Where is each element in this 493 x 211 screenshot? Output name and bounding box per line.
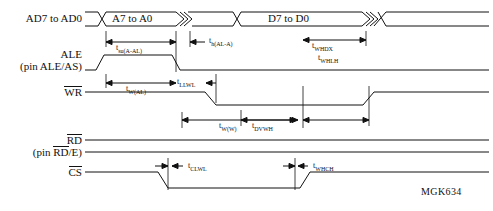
signal-label-rd-pin: (pin RD/E) [0, 146, 82, 158]
measure-twhlh [303, 86, 369, 128]
t-dvwh-sub: DVWH [254, 126, 273, 132]
signal-label-rd: RD (pin RD/E) [0, 134, 82, 158]
timing-label-t-w-w: tW(W) [219, 121, 237, 132]
measure-th-al-a [190, 31, 205, 47]
signal-label-ad-bus: AD7 to AD0 [0, 12, 82, 24]
t-whch-sub: WHCH [315, 166, 333, 172]
measure-twhch [283, 158, 308, 190]
signal-label-ale-pin: (pin ALE/AS) [0, 60, 82, 72]
signal-label-ad-bus-text: AD7 to AD0 [26, 12, 82, 24]
bus-label-address: A7 to A0 [112, 12, 152, 24]
timing-label-t-whlh: tWHLH [318, 53, 338, 64]
signal-label-ale: ALE (pin ALE/AS) [0, 48, 82, 72]
t-w-al-sub: W(AL) [128, 89, 146, 95]
signal-label-wr: WR [0, 86, 82, 98]
timing-label-t-llwl: tLLWL [177, 77, 195, 88]
timing-label-t-dvwh: tDVWH [252, 121, 273, 132]
t-h-al-a-sub: h(AL-A) [211, 41, 232, 47]
waveform-ale [85, 55, 489, 70]
t-whlh-sub: WHLH [320, 58, 338, 64]
signal-label-ale-text: ALE [0, 48, 82, 60]
timing-label-t-su-a-al: tsu(A-AL) [116, 43, 142, 54]
t-llwl-sub: LLWL [179, 82, 195, 88]
t-w-w-sub: W(W) [221, 126, 236, 132]
measure-tw-w [182, 112, 298, 128]
t-su-a-al-sub: su(A-AL) [118, 48, 142, 54]
signal-label-cs: CS [0, 166, 82, 178]
signal-label-rd-text: RD [67, 134, 82, 146]
timing-label-t-clwl: tCLWL [188, 161, 207, 172]
figure-id-code: MGK634 [421, 186, 462, 197]
timing-waveform-canvas [0, 0, 493, 211]
signal-label-rd-pin-overbar: RD [53, 146, 68, 158]
timing-label-t-whch: tWHCH [313, 161, 334, 172]
waveform-rd [85, 140, 489, 152]
bus-label-data: D7 to D0 [268, 12, 309, 24]
timing-label-t-whdx: tWHDX [312, 41, 333, 52]
timing-label-t-w-al: tW(AL) [126, 84, 146, 95]
t-whdx-sub: WHDX [314, 46, 333, 52]
timing-label-t-h-al-a: th(AL-A) [209, 36, 233, 47]
signal-label-wr-text: WR [64, 86, 82, 98]
t-clwl-sub: CLWL [190, 166, 207, 172]
timing-diagram: AD7 to AD0 ALE (pin ALE/AS) WR RD (pin R… [0, 0, 493, 211]
signal-label-cs-text: CS [69, 166, 82, 178]
